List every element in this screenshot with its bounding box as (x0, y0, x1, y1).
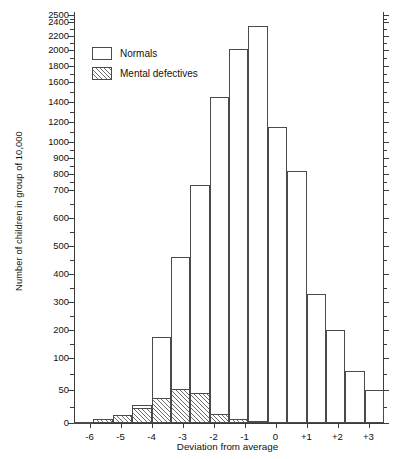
histogram-chart: Number of children in group of 10,000 De… (0, 0, 395, 459)
y-minor-tick-right (383, 344, 387, 345)
y-tick-right-200 (383, 330, 389, 331)
x-tick-label--4: -4 (137, 431, 167, 442)
y-minor-tick-right (383, 74, 387, 75)
y-tick-right-300 (383, 302, 389, 303)
bar-mental-defectives-0 (74, 422, 93, 424)
y-tick-right-600 (383, 218, 389, 219)
x-tick-label--2: -2 (199, 431, 229, 442)
x-tick-label-2: +2 (323, 431, 353, 442)
y-minor-tick (70, 166, 74, 167)
y-minor-tick (70, 112, 74, 113)
y-minor-tick-right (383, 182, 387, 183)
bar-mental-defectives-7 (210, 414, 229, 423)
bar-mental-defectives-5 (171, 389, 190, 423)
bar-normals-9 (248, 26, 267, 424)
y-tick-right-2200 (383, 36, 389, 37)
y-tick-right-400 (383, 274, 389, 275)
legend-swatch-mental-defectives (92, 67, 112, 80)
y-minor-tick-right (383, 92, 387, 93)
bar-normals-7 (210, 97, 229, 423)
bar-mental-defectives-8 (229, 419, 248, 423)
y-tick-right-2500 (383, 15, 389, 16)
y-minor-tick (70, 374, 74, 375)
x-tick--3 (183, 423, 184, 428)
y-minor-tick (70, 19, 74, 20)
y-tick-right-900 (383, 158, 389, 159)
y-minor-tick-right (383, 29, 387, 30)
y-tick-label-400: 400 (53, 269, 69, 278)
y-tick-right-1200 (383, 122, 389, 123)
x-tick--2 (214, 423, 215, 428)
y-tick-right-500 (383, 246, 389, 247)
y-tick-label-500: 500 (53, 241, 69, 250)
legend-label-normals: Normals (120, 48, 157, 59)
y-tick-label-2000: 2000 (48, 45, 69, 54)
y-axis-line-left (74, 12, 75, 424)
y-minor-tick (70, 58, 74, 59)
y-minor-tick (70, 132, 74, 133)
legend-item-normals: Normals (92, 45, 198, 62)
y-minor-tick (70, 407, 74, 408)
legend-swatch-normals (92, 47, 112, 60)
y-tick-label-900: 900 (53, 153, 69, 162)
y-tick-right-1400 (383, 102, 389, 103)
x-tick-label--1: -1 (230, 431, 260, 442)
y-tick-right-1800 (383, 66, 389, 67)
y-axis-title: Number of children in group of 10,000 (14, 81, 24, 341)
x-tick-0 (276, 423, 277, 428)
bar-normals-15 (365, 390, 384, 423)
y-minor-tick (70, 43, 74, 44)
bar-mental-defectives-2 (113, 415, 132, 423)
x-tick-label-1: +1 (292, 431, 322, 442)
y-tick-label-800: 800 (53, 169, 69, 178)
y-tick-right-1600 (383, 82, 389, 83)
x-tick--1 (245, 423, 246, 428)
y-tick-label-1400: 1400 (48, 97, 69, 106)
y-tick-right-2000 (383, 50, 389, 51)
y-tick-label-700: 700 (53, 185, 69, 194)
bar-normals-8 (229, 49, 248, 423)
y-minor-tick (70, 150, 74, 151)
x-tick-label--5: -5 (106, 431, 136, 442)
y-tick-label-50: 50 (59, 385, 69, 394)
bar-normals-13 (326, 330, 345, 423)
y-minor-tick-right (383, 204, 387, 205)
y-tick-label-200: 200 (53, 325, 69, 334)
x-tick-label--6: -6 (75, 431, 105, 442)
y-minor-tick (70, 232, 74, 233)
y-tick-label-1000: 1000 (48, 137, 69, 146)
y-minor-tick-right (383, 58, 387, 59)
y-tick-label-0: 0 (64, 418, 69, 427)
y-minor-tick-right (383, 43, 387, 44)
y-minor-tick-right (383, 150, 387, 151)
y-tick-label-1600: 1600 (48, 77, 69, 86)
y-minor-tick (70, 260, 74, 261)
bar-normals-10 (268, 127, 287, 423)
bar-mental-defectives-3 (132, 408, 151, 423)
x-axis-title: Deviation from average (60, 441, 395, 452)
bar-mental-defectives-4 (152, 398, 171, 423)
y-tick-right-800 (383, 174, 389, 175)
y-minor-tick-right (383, 260, 387, 261)
y-minor-tick-right (383, 166, 387, 167)
y-tick-label-100: 100 (53, 353, 69, 362)
y-tick-label-2500: 2500 (48, 10, 69, 19)
x-tick-2 (338, 423, 339, 428)
x-tick-1 (307, 423, 308, 428)
y-minor-tick-right (383, 232, 387, 233)
x-tick--4 (152, 423, 153, 428)
y-tick-right-0 (383, 423, 389, 424)
y-tick-right-1000 (383, 142, 389, 143)
x-tick-3 (369, 423, 370, 428)
y-minor-tick (70, 182, 74, 183)
bar-normals-11 (287, 171, 306, 423)
y-minor-tick (70, 74, 74, 75)
y-minor-tick (70, 288, 74, 289)
y-minor-tick (70, 344, 74, 345)
bar-mental-defectives-9 (248, 421, 267, 423)
x-tick-label--3: -3 (168, 431, 198, 442)
y-tick-label-1800: 1800 (48, 61, 69, 70)
y-minor-tick-right (383, 288, 387, 289)
y-tick-right-700 (383, 190, 389, 191)
y-minor-tick-right (383, 112, 387, 113)
